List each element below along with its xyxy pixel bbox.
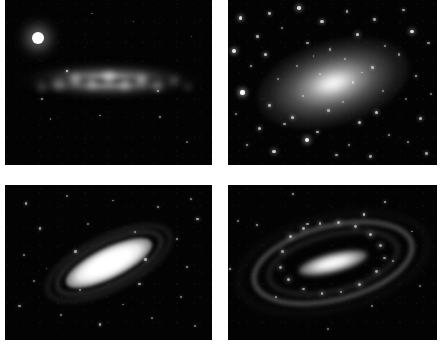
star-point: [33, 280, 35, 282]
disk-clump: [69, 73, 82, 86]
arm-knot: [279, 266, 282, 269]
star-point: [419, 285, 421, 287]
star-point: [297, 6, 301, 10]
star-point: [306, 42, 308, 44]
panel-top-left: [5, 0, 212, 165]
star-point: [122, 304, 124, 306]
star-point: [320, 20, 323, 23]
arm-knot: [281, 250, 284, 253]
star-point: [358, 121, 361, 124]
arm-knot: [375, 270, 378, 273]
star-point: [327, 109, 329, 111]
star-point: [268, 12, 271, 15]
arm-knot: [302, 288, 305, 291]
star-point: [402, 9, 405, 12]
star-point: [430, 93, 432, 95]
star-point: [240, 90, 244, 94]
disk-clump: [169, 76, 179, 85]
star-point: [256, 35, 259, 38]
star-point: [74, 250, 76, 252]
star-point: [407, 141, 409, 143]
panel-top-right: [228, 0, 437, 165]
star-point: [23, 254, 25, 256]
star-point: [144, 258, 147, 261]
star-point: [375, 111, 378, 114]
disk-clump: [51, 79, 67, 90]
galaxy-plate: [0, 0, 447, 353]
star-point: [18, 305, 20, 307]
arm-knot: [358, 283, 361, 286]
star-point: [191, 36, 192, 37]
star-point: [291, 116, 294, 119]
star-point: [66, 195, 68, 197]
star-point: [410, 30, 414, 34]
arm-knot: [289, 235, 292, 238]
star-point: [91, 13, 92, 14]
star-point: [180, 296, 182, 298]
star-point: [405, 98, 407, 100]
arm-knot: [302, 227, 305, 230]
star-point: [371, 66, 374, 69]
panel-bottom-left: [5, 185, 212, 340]
disk-clump: [183, 83, 193, 91]
star-point: [275, 296, 277, 298]
panel-bottom-right: [228, 185, 437, 340]
star-point: [157, 90, 159, 92]
star-point: [186, 141, 188, 143]
star-point: [373, 18, 376, 21]
star-point: [369, 155, 372, 158]
star-point: [382, 90, 384, 92]
star-point: [427, 42, 429, 44]
star-point: [425, 152, 428, 155]
arm-knot: [369, 233, 372, 236]
star-point: [87, 223, 89, 225]
star-point: [25, 202, 27, 204]
arm-knot: [383, 257, 386, 260]
star-point: [296, 65, 298, 67]
star-point: [283, 123, 285, 125]
disk-clump: [36, 83, 48, 92]
star-point: [306, 223, 308, 225]
disk-clump: [86, 78, 98, 89]
star-point: [319, 73, 321, 75]
arm-knot: [379, 244, 382, 247]
star-point: [363, 213, 366, 216]
disk-clump: [119, 79, 131, 90]
